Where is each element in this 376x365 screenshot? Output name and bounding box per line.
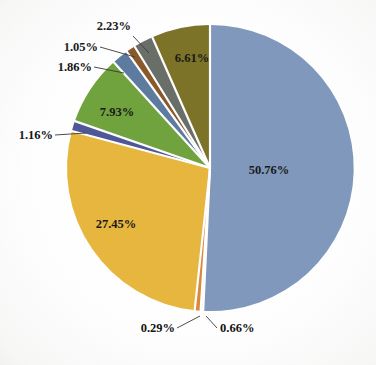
pie-chart-figure: 50.76% 27.45% 7.93% 6.61% 2.23% 1.05% 1.… <box>0 0 376 365</box>
pie-label-6-61: 6.61% <box>175 51 209 65</box>
pie-callout-0-29: 0.29% <box>141 321 175 335</box>
pie-callout-0-66: 0.66% <box>220 321 254 335</box>
pie-callout-1-16: 1.16% <box>19 128 53 142</box>
leader-line-0-66 <box>206 316 217 328</box>
pie-chart-canvas: 50.76% 27.45% 7.93% 6.61% 2.23% 1.05% 1.… <box>0 0 376 365</box>
pie-label-7-93: 7.93% <box>100 105 134 119</box>
leader-line-0-29 <box>177 316 200 328</box>
pie-callout-1-86: 1.86% <box>58 60 92 74</box>
pie-label-27-45: 27.45% <box>96 217 137 231</box>
pie-callout-1-05: 1.05% <box>64 40 98 54</box>
pie-label-50-76: 50.76% <box>249 163 290 177</box>
pie-callout-2-23: 2.23% <box>97 19 131 33</box>
